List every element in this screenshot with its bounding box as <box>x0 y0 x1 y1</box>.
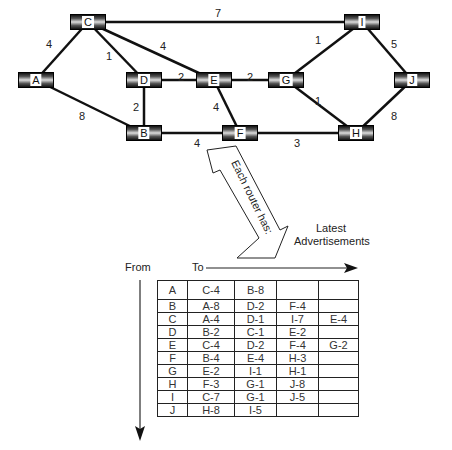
table-cell <box>277 281 319 300</box>
table-cell: E-4 <box>319 313 359 326</box>
table-cell: D-1 <box>235 313 277 326</box>
from-label: From <box>125 261 151 273</box>
node-label: H <box>350 127 362 139</box>
table-row: E C-4 D-2 F-4 G-2 <box>158 339 359 352</box>
weight-a-b: 8 <box>79 110 85 122</box>
table-cell: C-4 <box>188 281 235 300</box>
weight-f-h: 3 <box>294 137 300 149</box>
table-cell: F <box>158 352 188 365</box>
node-label: E <box>208 74 219 86</box>
advertisements-label: Advertisements <box>294 235 370 247</box>
table-cell: B-8 <box>235 281 277 300</box>
table-cell: E-4 <box>235 352 277 365</box>
table-row: B A-8 D-2 F-4 <box>158 300 359 313</box>
table-cell <box>277 404 319 417</box>
node-label: I <box>358 16 365 28</box>
table-cell: B-4 <box>188 352 235 365</box>
router-node-f: F <box>222 125 258 141</box>
table-cell: I <box>158 391 188 404</box>
node-label: G <box>280 74 293 86</box>
table-row: F B-4 E-4 H-3 <box>158 352 359 365</box>
weight-d-e: 2 <box>178 71 184 83</box>
table-cell: B <box>158 300 188 313</box>
weight-e-f: 4 <box>213 101 219 113</box>
table-cell: C-4 <box>188 339 235 352</box>
table-cell: A-8 <box>188 300 235 313</box>
weight-g-h: 1 <box>315 95 321 107</box>
table-cell: G-2 <box>319 339 359 352</box>
weight-g-i: 1 <box>315 34 321 46</box>
table-row: D B-2 C-1 E-2 <box>158 326 359 339</box>
weight-c-i: 7 <box>215 7 221 19</box>
weight-c-e: 4 <box>160 40 166 52</box>
table-cell <box>319 404 359 417</box>
table-cell: B-2 <box>188 326 235 339</box>
table-cell: J-8 <box>277 378 319 391</box>
table-cell: I-1 <box>235 365 277 378</box>
latest-label: Latest <box>316 222 346 234</box>
router-node-a: A <box>18 72 54 88</box>
table-cell: E <box>158 339 188 352</box>
node-label: B <box>138 127 149 139</box>
table-cell <box>319 365 359 378</box>
table-cell: I-7 <box>277 313 319 326</box>
table-cell: D <box>158 326 188 339</box>
weight-e-g: 2 <box>247 71 253 83</box>
node-label: D <box>138 74 150 86</box>
table-cell: F-4 <box>277 339 319 352</box>
table-cell: D-2 <box>235 300 277 313</box>
table-cell: J-5 <box>277 391 319 404</box>
table-cell: A-4 <box>188 313 235 326</box>
table-cell: D-2 <box>235 339 277 352</box>
table-cell <box>319 391 359 404</box>
table-cell: I-5 <box>235 404 277 417</box>
table-cell <box>319 281 359 300</box>
table-cell: G-1 <box>235 391 277 404</box>
table-row: I C-7 G-1 J-5 <box>158 391 359 404</box>
weight-d-b: 2 <box>133 101 139 113</box>
table-cell: H <box>158 378 188 391</box>
table-row: J H-8 I-5 <box>158 404 359 417</box>
table-row: H F-3 G-1 J-8 <box>158 378 359 391</box>
table-cell: G-1 <box>235 378 277 391</box>
table-cell <box>319 300 359 313</box>
router-node-b: B <box>126 125 162 141</box>
node-label: A <box>30 74 41 86</box>
table-cell: A <box>158 281 188 300</box>
table-cell: H-1 <box>277 365 319 378</box>
weight-b-f: 4 <box>194 137 200 149</box>
router-node-d: D <box>126 72 162 88</box>
table-cell: C <box>158 313 188 326</box>
table-cell: C-1 <box>235 326 277 339</box>
table-cell <box>319 378 359 391</box>
node-label: J <box>407 74 417 86</box>
table-cell: F-4 <box>277 300 319 313</box>
node-label: F <box>235 127 246 139</box>
table-cell <box>319 352 359 365</box>
advertisements-table: A C-4 B-8 B A-8 D-2 F-4 C A-4 D-1 I-7 E-… <box>157 280 359 417</box>
router-node-g: G <box>268 72 304 88</box>
router-node-c: C <box>70 14 106 30</box>
table-row: A C-4 B-8 <box>158 281 359 300</box>
table-cell: G <box>158 365 188 378</box>
node-label: C <box>82 16 94 28</box>
table-cell: E-2 <box>188 365 235 378</box>
table-row: G E-2 I-1 H-1 <box>158 365 359 378</box>
router-node-h: H <box>338 125 374 141</box>
table-cell: H-8 <box>188 404 235 417</box>
table-cell: F-3 <box>188 378 235 391</box>
router-node-j: J <box>394 72 430 88</box>
weight-h-j: 8 <box>391 110 397 122</box>
table-cell: J <box>158 404 188 417</box>
table-cell: E-2 <box>277 326 319 339</box>
weight-c-a: 4 <box>46 38 52 50</box>
table-cell <box>319 326 359 339</box>
table-cell: C-7 <box>188 391 235 404</box>
router-node-i: I <box>344 14 380 30</box>
weight-c-d: 1 <box>106 50 112 62</box>
table-cell: H-3 <box>277 352 319 365</box>
table-row: C A-4 D-1 I-7 E-4 <box>158 313 359 326</box>
router-node-e: E <box>196 72 232 88</box>
weight-i-j: 5 <box>391 38 397 50</box>
to-label: To <box>192 261 204 273</box>
